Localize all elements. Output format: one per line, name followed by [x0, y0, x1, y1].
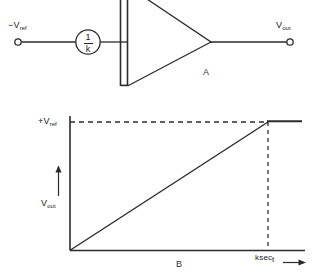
x-axis-title: t	[272, 256, 274, 264]
figure-root: −Vref 1 k Vout A +Vref Vout ksec t B	[0, 0, 314, 275]
panel-b-label: B	[176, 260, 182, 269]
gain-block-value: 1 k	[77, 33, 99, 54]
y-axis-arrow-head	[55, 166, 61, 173]
ksec-tick-label: ksec	[255, 254, 272, 262]
output-terminal-icon	[287, 39, 293, 45]
y-axis-title: Vout	[41, 199, 56, 208]
output-terminal-label: Vout	[276, 21, 291, 30]
panel-b-plot	[55, 116, 306, 265]
input-terminal-icon	[15, 39, 21, 45]
circuit-and-waveform-diagram	[0, 0, 314, 275]
gain-denominator: k	[77, 45, 99, 54]
vref-axis-tick-label: +Vref	[38, 117, 57, 126]
panel-a-circuit	[15, 0, 293, 86]
gain-numerator: 1	[77, 33, 99, 43]
ramp-trace	[71, 122, 269, 250]
input-terminal-label: −Vref	[8, 21, 27, 30]
panel-a-label: A	[203, 68, 209, 77]
amplifier-triangle	[128, 0, 212, 86]
x-axis-arrow-head	[299, 260, 307, 266]
